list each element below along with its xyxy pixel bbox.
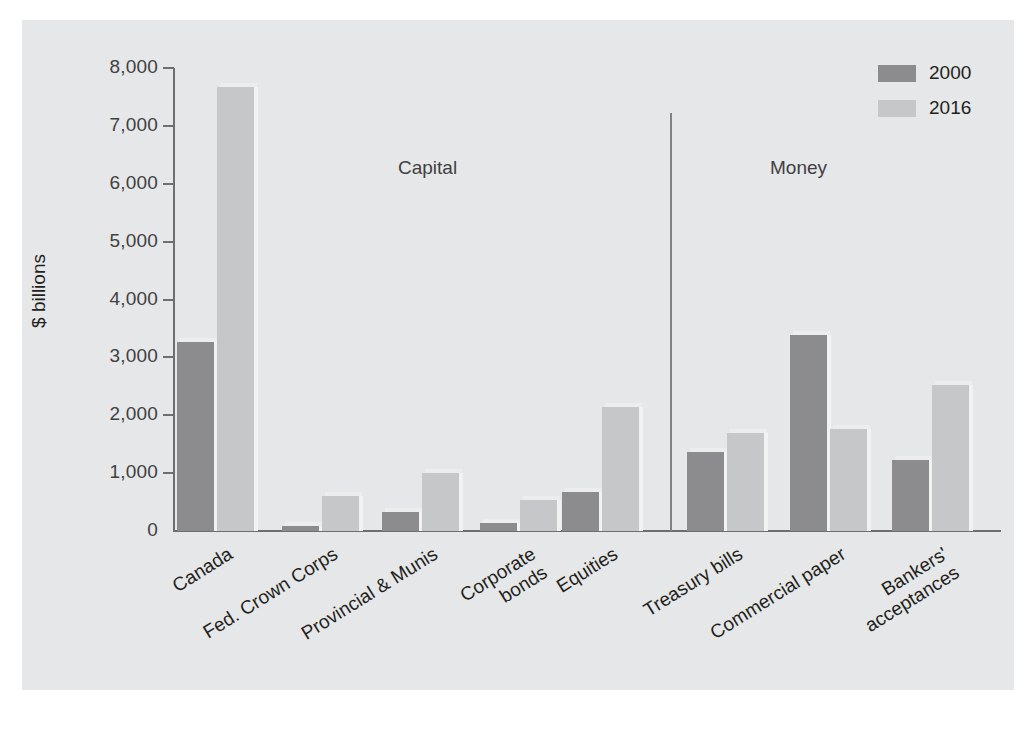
bar-top-highlight <box>220 83 257 87</box>
bar-body <box>322 496 359 531</box>
y-tick-label: 1,000 <box>78 461 158 483</box>
bar-top-highlight <box>425 469 462 473</box>
legend-item-2000[interactable]: 2000 <box>878 62 971 84</box>
bar-2000-fed-crown-corps[interactable] <box>282 526 319 531</box>
bar-side-highlight <box>867 429 871 531</box>
bar-side-highlight <box>557 500 561 531</box>
y-tick-label: 6,000 <box>78 172 158 194</box>
bar-top-highlight <box>385 508 422 512</box>
section-label-money: Money <box>770 157 827 179</box>
bar-top-highlight <box>523 496 560 500</box>
bar-2000-commercial-paper[interactable] <box>790 335 827 531</box>
bar-2000-treasury-bills[interactable] <box>687 452 724 531</box>
y-tick-mark <box>163 241 174 243</box>
bar-top-highlight <box>730 429 767 433</box>
section-label-capital: Capital <box>398 157 457 179</box>
y-tick-mark <box>163 183 174 185</box>
bar-body <box>830 429 867 531</box>
bar-2000-bankers-acceptances[interactable] <box>892 460 929 531</box>
y-tick-label: 8,000 <box>78 56 158 78</box>
figure: 8,0007,0006,0005,0004,0003,0002,0001,000… <box>0 0 1036 729</box>
bar-body <box>892 460 929 531</box>
bar-side-highlight <box>359 496 363 531</box>
legend-label-2000: 2000 <box>929 62 971 84</box>
bar-body <box>520 500 557 531</box>
bar-side-highlight <box>764 433 768 531</box>
legend-item-2016[interactable]: 2016 <box>878 97 971 119</box>
y-tick-label: 3,000 <box>78 345 158 367</box>
bar-2016-equities[interactable] <box>602 407 639 531</box>
legend-swatch-2016 <box>878 100 916 117</box>
bar-top-highlight <box>690 448 727 452</box>
y-tick-label: 2,000 <box>78 403 158 425</box>
bar-body <box>602 407 639 531</box>
y-tick-mark <box>163 414 174 416</box>
plot-area: 8,0007,0006,0005,0004,0003,0002,0001,000… <box>0 0 1036 729</box>
bar-body <box>217 87 254 531</box>
bar-body <box>687 452 724 531</box>
bar-top-highlight <box>895 456 932 460</box>
bar-top-highlight <box>483 519 520 523</box>
y-tick-mark <box>163 125 174 127</box>
bar-side-highlight <box>254 87 258 531</box>
bar-top-highlight <box>605 403 642 407</box>
legend-label-2016: 2016 <box>929 97 971 119</box>
legend-swatch-2000 <box>878 65 916 82</box>
section-divider <box>670 113 672 531</box>
bar-top-highlight <box>325 492 362 496</box>
bar-2016-fed-crown-corps[interactable] <box>322 496 359 531</box>
bar-top-highlight <box>180 338 217 342</box>
y-tick-label: 7,000 <box>78 114 158 136</box>
bar-2016-bankers-acceptances[interactable] <box>932 385 969 531</box>
bar-2016-commercial-paper[interactable] <box>830 429 867 531</box>
bar-side-highlight <box>459 473 463 531</box>
bar-top-highlight <box>793 331 830 335</box>
bar-side-highlight <box>969 385 973 531</box>
bar-2000-canada[interactable] <box>177 342 214 531</box>
bar-side-highlight <box>639 407 643 531</box>
bar-2000-equities[interactable] <box>562 492 599 531</box>
bar-body <box>422 473 459 531</box>
y-tick-label: 4,000 <box>78 288 158 310</box>
bar-top-highlight <box>833 425 870 429</box>
bar-2016-canada[interactable] <box>217 87 254 531</box>
y-tick-mark <box>163 356 174 358</box>
bar-2016-provincial--munis[interactable] <box>422 473 459 531</box>
bar-body <box>932 385 969 531</box>
y-tick-label: 0 <box>78 519 158 541</box>
bar-top-highlight <box>285 522 322 526</box>
y-tick-mark <box>163 299 174 301</box>
bar-2000-provincial--munis[interactable] <box>382 512 419 531</box>
bar-body <box>562 492 599 531</box>
y-tick-mark <box>163 67 174 69</box>
bar-top-highlight <box>565 488 602 492</box>
bar-body <box>382 512 419 531</box>
bar-2000-corporate-bonds[interactable] <box>480 523 517 531</box>
y-axis-title: $ billions <box>28 211 50 371</box>
y-tick-mark <box>163 472 174 474</box>
legend: 2000 2016 <box>878 62 971 132</box>
bar-2016-treasury-bills[interactable] <box>727 433 764 531</box>
y-tick-label: 5,000 <box>78 230 158 252</box>
bar-2016-corporate-bonds[interactable] <box>520 500 557 531</box>
bar-body <box>177 342 214 531</box>
bar-top-highlight <box>935 381 972 385</box>
bar-body <box>282 526 319 531</box>
bar-body <box>480 523 517 531</box>
bar-body <box>790 335 827 531</box>
bar-body <box>727 433 764 531</box>
